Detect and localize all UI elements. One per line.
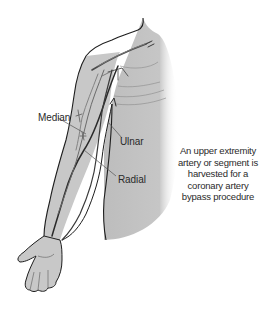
median-label: Median <box>38 113 70 123</box>
caption-line: harvested for a <box>172 168 264 180</box>
caption-line: coronary artery <box>172 180 264 192</box>
arm-artery-illustration: Median Ulnar Radial An upper extremity a… <box>0 0 264 311</box>
caption-line: An upper extremity <box>172 145 264 157</box>
hand <box>18 236 62 292</box>
caption-line: artery or segment is <box>172 157 264 169</box>
caption-line: bypass procedure <box>172 191 264 203</box>
torso-shadow <box>100 18 190 245</box>
figure-caption: An upper extremity artery or segment is … <box>172 145 264 203</box>
ulnar-label: Ulnar <box>120 137 143 147</box>
radial-label: Radial <box>118 175 146 185</box>
